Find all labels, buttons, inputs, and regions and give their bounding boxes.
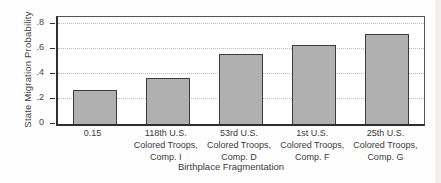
y-tick-label: .4 (14, 68, 44, 77)
bar (146, 78, 190, 124)
y-tick-mark (50, 98, 55, 99)
bar (219, 54, 263, 124)
bar-chart-figure: State Migration Probability Birthplace F… (0, 0, 441, 183)
x-category-label: 25th U.S. Colored Troops, Comp. G (335, 127, 435, 163)
plot-area (56, 16, 425, 126)
bar (292, 45, 336, 124)
y-tick-label: .2 (14, 93, 44, 102)
y-tick-label: .8 (14, 18, 44, 27)
y-tick-mark (50, 48, 55, 49)
y-tick-mark (50, 123, 55, 124)
gridline-y-.8 (58, 23, 424, 24)
bar (73, 90, 117, 124)
y-tick-label: 0 (14, 118, 44, 127)
bar (365, 34, 409, 124)
scan-edge-artifact (435, 0, 441, 183)
y-tick-mark (50, 73, 55, 74)
y-tick-mark (50, 23, 55, 24)
y-tick-label: .6 (14, 43, 44, 52)
